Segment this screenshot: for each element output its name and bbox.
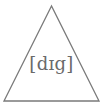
phonetic-label: [dɪg] — [0, 52, 103, 76]
